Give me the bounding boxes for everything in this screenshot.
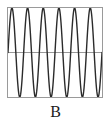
waveform-plot	[8, 8, 102, 97]
panel-label: B	[0, 101, 111, 123]
plot-box	[7, 7, 103, 98]
figure-panel-b: B	[0, 0, 111, 127]
